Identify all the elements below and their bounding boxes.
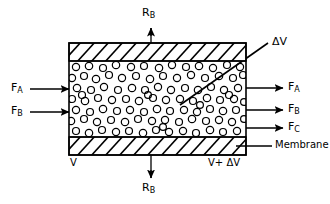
- label-delta-v: ΔV: [272, 36, 287, 47]
- inlet-arrows: [30, 89, 69, 112]
- label-inlet-fb: FB: [11, 105, 23, 118]
- label-top-rb: RB: [142, 7, 155, 20]
- outlet-arrows: [246, 88, 283, 128]
- label-volume-right: V+ ΔV: [208, 158, 240, 168]
- label-inlet-fa: FA: [11, 82, 23, 95]
- label-volume-left: V: [70, 158, 77, 168]
- diagram-canvas: [0, 0, 330, 204]
- membrane-reactor-diagram: RB RB ΔV FA FB FA FB FC Membrane V V+ ΔV: [0, 0, 330, 204]
- label-outlet-fb: FB: [288, 103, 300, 116]
- label-membrane: Membrane: [275, 140, 329, 150]
- label-outlet-fa: FA: [288, 81, 300, 94]
- membrane-bottom-band: [62, 135, 264, 157]
- label-bottom-rb: RB: [142, 182, 155, 195]
- membrane-top-band: [62, 41, 264, 63]
- label-outlet-fc: FC: [288, 121, 300, 134]
